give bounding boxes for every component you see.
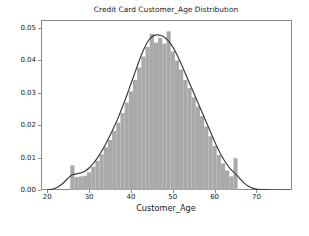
x-tick-label: 30 <box>79 193 99 201</box>
histogram-bar <box>158 38 162 190</box>
chart-title: Credit Card Customer_Age Distribution <box>40 5 292 14</box>
matplotlib-figure: Credit Card Customer_Age Distribution 0.… <box>0 0 309 236</box>
y-tick-label: 0.04 <box>10 56 36 64</box>
histogram-kde-plot <box>41 20 292 190</box>
x-tick-mark <box>256 190 257 193</box>
histogram-bar <box>213 146 217 190</box>
histogram-bar <box>196 106 200 190</box>
histogram-bar <box>175 60 179 190</box>
histogram-bar <box>133 80 137 190</box>
y-tick-label: 0.03 <box>10 89 36 97</box>
histogram-bar <box>179 70 183 190</box>
histogram-bar <box>146 47 150 190</box>
histogram-bar <box>192 97 196 190</box>
x-tick-mark <box>173 190 174 193</box>
histogram-bar <box>74 177 78 190</box>
histogram-bar <box>204 127 208 190</box>
histogram-bar <box>208 136 212 190</box>
y-tick-mark <box>38 93 41 94</box>
histogram-bar <box>95 161 99 190</box>
histogram-bar <box>217 155 221 190</box>
x-tick-label: 60 <box>205 193 225 201</box>
histogram-bar <box>125 103 129 190</box>
histogram-bar <box>91 167 95 190</box>
y-tick-label: 0.05 <box>10 24 36 32</box>
histogram-bars <box>70 31 237 190</box>
histogram-bar <box>229 176 233 190</box>
x-tick-mark <box>47 190 48 193</box>
plot-area <box>41 20 292 190</box>
histogram-bar <box>100 154 104 190</box>
y-tick-mark <box>38 158 41 159</box>
histogram-bar <box>137 68 141 190</box>
histogram-bar <box>129 91 133 190</box>
x-tick-label: 40 <box>121 193 141 201</box>
histogram-bar <box>83 176 87 190</box>
histogram-bar <box>167 31 171 190</box>
histogram-bar <box>120 113 124 190</box>
histogram-bar <box>162 44 166 190</box>
y-tick-mark <box>38 125 41 126</box>
histogram-bar <box>141 57 145 190</box>
histogram-bar <box>171 51 175 190</box>
x-tick-mark <box>89 190 90 193</box>
x-tick-mark <box>215 190 216 193</box>
x-axis-label: Customer_Age <box>40 203 292 213</box>
y-tick-mark <box>38 60 41 61</box>
x-tick-label: 20 <box>37 193 57 201</box>
x-tick-label: 70 <box>246 193 266 201</box>
histogram-bar <box>183 80 187 190</box>
y-tick-mark <box>38 28 41 29</box>
y-tick-label: 0.00 <box>10 186 36 194</box>
histogram-bar <box>104 147 108 190</box>
histogram-bar <box>154 43 158 190</box>
y-tick-label: 0.01 <box>10 154 36 162</box>
histogram-bar <box>87 172 91 190</box>
histogram-bar <box>225 171 229 190</box>
histogram-bar <box>150 34 154 190</box>
y-tick-label: 0.02 <box>10 121 36 129</box>
histogram-bar <box>79 176 83 190</box>
y-tick-mark <box>38 190 41 191</box>
x-tick-label: 50 <box>163 193 183 201</box>
x-tick-mark <box>131 190 132 193</box>
histogram-bar <box>221 163 225 190</box>
histogram-bar <box>70 165 74 190</box>
histogram-bar <box>116 123 120 190</box>
screenshot-root: Credit Card Customer_Age Distribution 0.… <box>0 0 309 236</box>
histogram-bar <box>108 140 112 190</box>
histogram-bar <box>187 88 191 190</box>
histogram-bar <box>112 131 116 190</box>
histogram-bar <box>200 116 204 190</box>
